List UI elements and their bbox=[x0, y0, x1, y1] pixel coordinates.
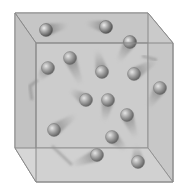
molecule-ball bbox=[100, 21, 113, 34]
box-front-face bbox=[36, 43, 173, 182]
molecule-ball bbox=[40, 24, 53, 37]
box-front-wall bbox=[36, 43, 173, 182]
gas-box-illustration bbox=[0, 0, 183, 193]
kinetic-gas-diagram bbox=[0, 0, 183, 193]
